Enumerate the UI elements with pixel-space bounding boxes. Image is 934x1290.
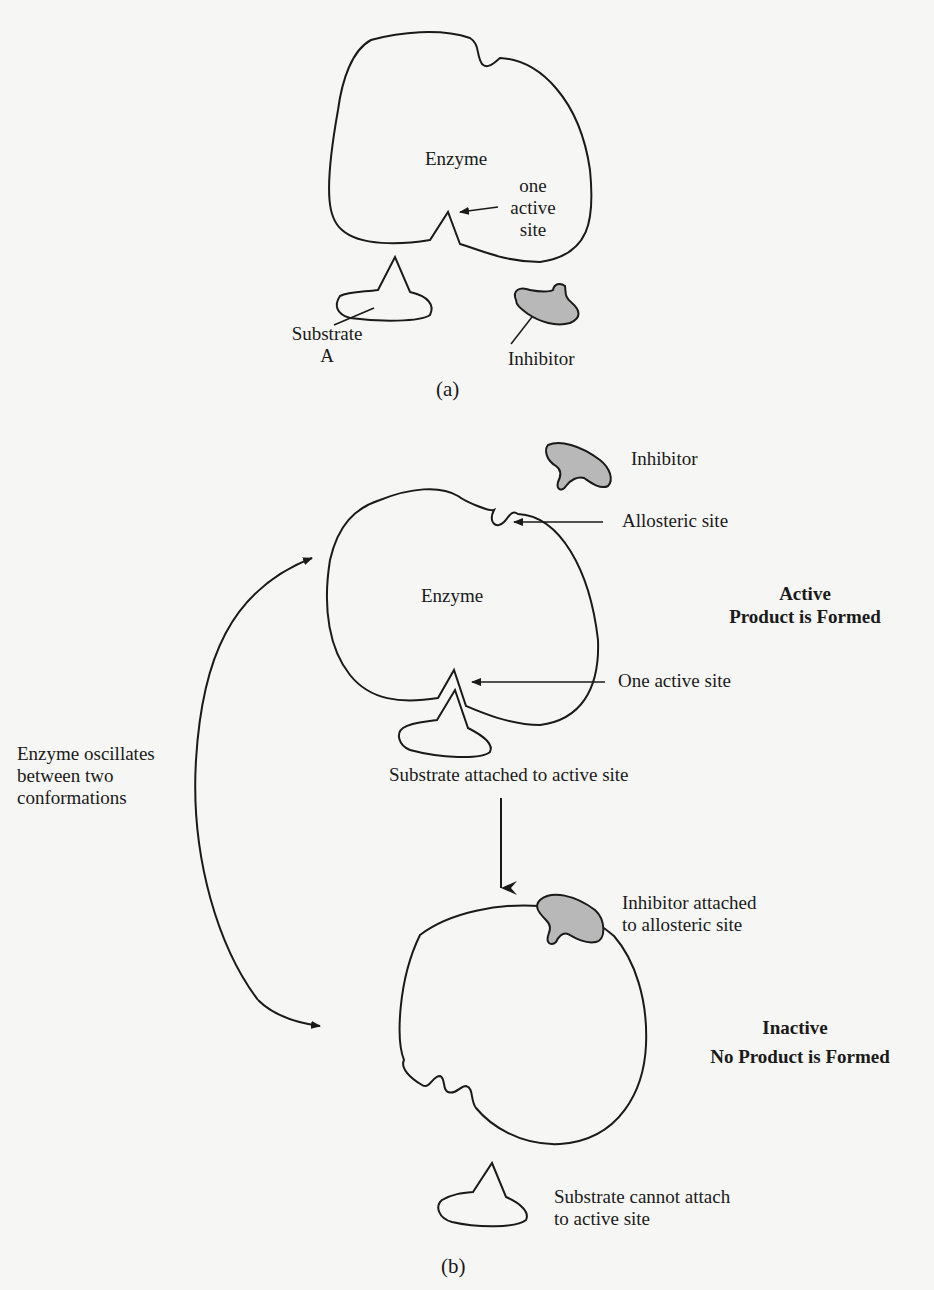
substrate-shape-a <box>337 257 432 321</box>
arrow-icon <box>460 207 498 212</box>
enzyme-shape-b-active <box>327 489 598 725</box>
inhibitor-shape-a <box>515 284 579 324</box>
enzyme-shape-b-inactive <box>400 905 647 1144</box>
inactive-state-title: Inactive <box>710 1017 880 1039</box>
inactive-state-subtitle: No Product is Formed <box>695 1046 905 1068</box>
inhibitor-shape-b-free <box>546 443 611 489</box>
diagram-canvas <box>0 0 934 1290</box>
inhibitor-shape-b-attached <box>537 895 603 944</box>
active-site-label-a: one active site <box>503 175 563 241</box>
active-state-subtitle: Product is Formed <box>700 606 910 628</box>
caption-a: (a) <box>436 378 459 400</box>
active-site-label-b: One active site <box>618 670 731 692</box>
oscillation-arrow <box>195 558 312 1000</box>
active-state-title: Active <box>700 583 910 605</box>
inhibitor-attached-label: Inhibitor attached to allosteric site <box>622 892 757 936</box>
substrate-attached-label: Substrate attached to active site <box>389 764 629 786</box>
allosteric-site-label: Allosteric site <box>622 510 728 532</box>
panel-b-inactive <box>400 895 647 1226</box>
enzyme-label-a: Enzyme <box>425 148 487 170</box>
inhibitor-label-a: Inhibitor <box>508 348 575 370</box>
substrate-cannot-attach-label: Substrate cannot attach to active site <box>554 1186 730 1230</box>
caption-b: (b) <box>441 1255 466 1277</box>
substrate-shape-b-free <box>438 1163 527 1226</box>
oscillation-label: Enzyme oscillates between two conformati… <box>17 743 155 809</box>
substrate-label-a: Substrate A <box>282 323 372 367</box>
enzyme-label-b: Enzyme <box>421 585 483 607</box>
inhibitor-label-b: Inhibitor <box>631 448 698 470</box>
panel-b-active <box>327 443 611 888</box>
